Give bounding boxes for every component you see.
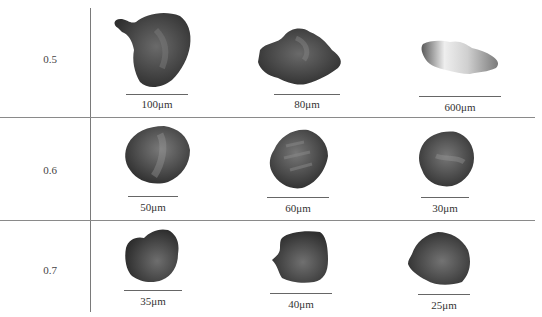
scale-label-r1c1: 100μm [117,98,197,110]
row-label-0-6: 0.6 [30,164,70,176]
scale-bar-r3c1 [124,290,182,291]
particle-image-r2c3 [416,128,478,190]
scale-label-r2c2: 60μm [258,202,338,214]
scale-label-r2c3: 30μm [405,202,485,214]
row-divider-1 [0,117,535,118]
particle-image-r3c1 [122,226,184,286]
row-label-0-7: 0.7 [30,264,70,276]
scale-label-r2c1: 50μm [113,201,193,213]
scale-bar-r3c3 [418,294,470,295]
column-divider [90,8,91,312]
row-divider-2 [0,220,535,221]
particle-image-r2c1 [120,124,192,188]
scale-bar-r1c2 [274,94,340,95]
scale-bar-r2c1 [128,196,178,197]
particle-image-r3c3 [406,228,474,288]
particle-image-r1c2 [256,22,356,88]
scale-bar-r2c3 [421,197,469,198]
scale-bar-r1c1 [126,94,188,95]
scale-bar-r1c3 [419,96,501,97]
scale-label-r3c3: 25μm [404,299,484,311]
scale-label-r3c1: 35μm [113,295,193,307]
scale-label-r1c3: 600μm [420,101,500,113]
particle-image-r2c2 [264,124,334,194]
scale-bar-r3c2 [270,293,332,294]
row-label-0-5: 0.5 [30,53,70,65]
scale-label-r1c2: 80μm [267,98,347,110]
scale-label-r3c2: 40μm [261,298,341,310]
scale-bar-r2c2 [267,197,329,198]
particle-image-r1c1 [108,10,198,90]
particle-image-r1c3 [420,38,502,78]
particle-image-r3c2 [268,228,332,288]
